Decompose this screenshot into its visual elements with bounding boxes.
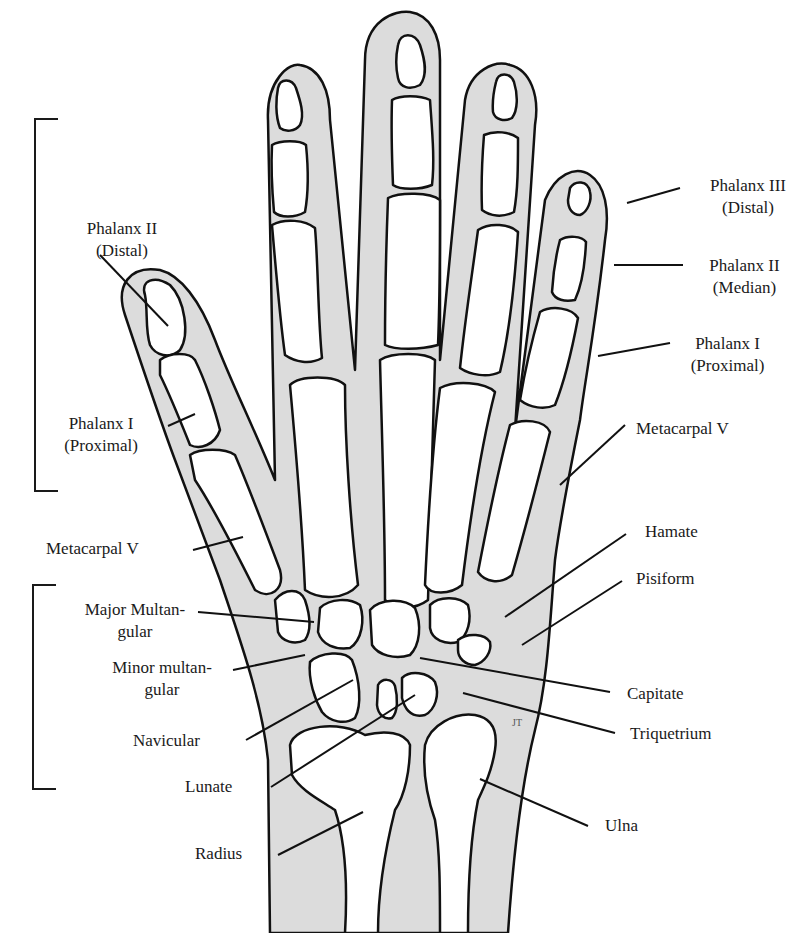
ring-distal-phalanx bbox=[493, 75, 517, 121]
triquetrium-bone bbox=[402, 673, 437, 716]
ring-middle-phalanx bbox=[482, 132, 518, 215]
label-thumb-phalanx-i-proximal: Phalanx I (Proximal) bbox=[46, 413, 156, 457]
label-minor-multangular: Minor multan- gular bbox=[92, 657, 232, 701]
label-little-phalanx-iii-distal: Phalanx III (Distal) bbox=[693, 175, 803, 219]
label-thumb-phalanx-ii-distal: Phalanx II (Distal) bbox=[62, 218, 182, 262]
little-distal-phalanx bbox=[568, 182, 591, 215]
middle-proximal-phalanx bbox=[385, 194, 440, 349]
hand-skeleton-diagram bbox=[0, 0, 812, 933]
label-radius: Radius bbox=[195, 843, 242, 865]
label-lunate: Lunate bbox=[185, 776, 232, 798]
label-triquetrium: Triquetrium bbox=[630, 723, 712, 745]
label-metacarpal-v-right: Metacarpal V bbox=[636, 418, 729, 440]
label-capitate: Capitate bbox=[627, 683, 684, 705]
label-little-phalanx-i-proximal: Phalanx I (Proximal) bbox=[675, 333, 780, 377]
major-multangular-bone bbox=[275, 591, 310, 642]
label-metacarpal-v-left: Metacarpal V bbox=[46, 538, 139, 560]
index-middle-phalanx bbox=[272, 141, 308, 216]
label-major-multangular: Major Multan- gular bbox=[65, 599, 205, 643]
label-little-phalanx-ii-median: Phalanx II (Median) bbox=[692, 255, 797, 299]
label-hamate: Hamate bbox=[645, 521, 698, 543]
capitate-bone bbox=[370, 601, 419, 657]
label-ulna: Ulna bbox=[605, 815, 638, 837]
lower-left-bracket bbox=[32, 584, 56, 790]
middle-middle-phalanx bbox=[392, 96, 434, 189]
label-navicular: Navicular bbox=[133, 730, 200, 752]
trapezoid-bone bbox=[318, 600, 362, 648]
artist-signature: JT bbox=[512, 712, 522, 734]
label-pisiform: Pisiform bbox=[636, 568, 695, 590]
